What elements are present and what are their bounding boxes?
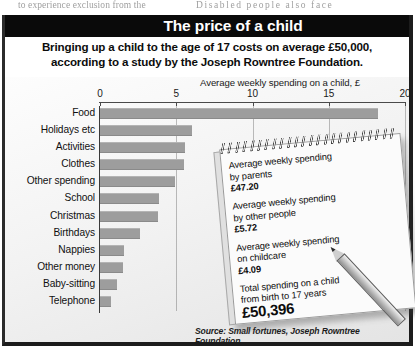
graphic-frame: The price of a child Bringing up a child…: [2, 15, 413, 346]
spiral-coil: [294, 136, 299, 148]
bar-category-label: Other spending: [5, 175, 95, 186]
notepad-item: Average weekly spendingon childcare£4.09: [236, 228, 400, 277]
spiral-coil: [308, 135, 313, 147]
page-title: The price of a child: [5, 17, 401, 35]
x-axis-title: Average weekly spending on a child, £: [155, 77, 405, 88]
x-axis-tick-labels: 05101520: [5, 88, 409, 100]
x-tick-label: 10: [247, 88, 258, 99]
bar-category-label: Holidays etc: [5, 124, 95, 135]
newspaper-bleed-text: to experience exclusion from the Disable…: [0, 0, 415, 14]
spiral-coil: [257, 140, 262, 152]
spiral-coil: [272, 138, 277, 150]
spiral-coil: [323, 133, 328, 145]
spiral-coil: [367, 129, 372, 141]
spiral-coil: [316, 134, 321, 146]
bar: [100, 279, 117, 290]
bar: [100, 125, 192, 136]
x-tick-label: 15: [323, 88, 334, 99]
x-tick-label: 5: [173, 88, 179, 99]
spiral-coil: [279, 138, 284, 150]
bar-category-label: Birthdays: [5, 227, 95, 238]
bar: [100, 108, 378, 119]
spiral-coil: [360, 130, 365, 142]
title-bar: The price of a child: [5, 15, 409, 37]
bar: [100, 176, 175, 187]
bar-category-label: Clothes: [5, 158, 95, 169]
spiral-coil: [331, 133, 336, 145]
spiral-coil: [338, 132, 343, 144]
bar-category-label: Baby-sitting: [5, 278, 95, 289]
bar: [100, 159, 184, 170]
bar: [100, 245, 124, 256]
spiral-coil: [375, 129, 380, 141]
x-tick-label: 0: [97, 88, 103, 99]
deck-line-1: Bringing up a child to the age of 17 cos…: [42, 40, 372, 53]
bar: [100, 193, 159, 204]
infographic-page: to experience exclusion from the Disable…: [0, 0, 415, 359]
bar-category-label: Nappies: [5, 244, 95, 255]
deck-text: Bringing up a child to the age of 17 cos…: [5, 39, 409, 69]
spiral-coil: [220, 143, 225, 155]
bleed-text-left: to experience exclusion from the: [18, 0, 146, 10]
deck-line-2: according to a study by the Joseph Rownt…: [5, 54, 409, 69]
bar-category-label: Other money: [5, 261, 95, 272]
x-tick-label: 20: [399, 88, 410, 99]
bar-category-label: School: [5, 192, 95, 203]
spiral-coil: [390, 127, 395, 139]
bar: [100, 296, 111, 307]
spiral-coil: [242, 141, 247, 153]
bar-category-label: Activities: [5, 141, 95, 152]
spiral-coil: [301, 135, 306, 147]
spiral-coil: [353, 131, 358, 143]
bleed-text-right: Disabled people also face: [196, 0, 333, 10]
spiral-coil: [227, 142, 232, 154]
bar: [100, 228, 140, 239]
bar: [100, 262, 123, 273]
spiral-coil: [235, 142, 240, 154]
spiral-coil: [250, 140, 255, 152]
spiral-coil: [286, 137, 291, 149]
bar-category-label: Christmas: [5, 210, 95, 221]
spiral-coil: [264, 139, 269, 151]
notepad-item: Average weekly spendingby other people£5…: [232, 187, 396, 236]
bar-row: Food: [5, 106, 409, 123]
spiral-coil: [345, 131, 350, 143]
spiral-coil: [382, 128, 387, 140]
bar: [100, 211, 158, 222]
bar-category-label: Food: [5, 107, 95, 118]
bar: [100, 142, 185, 153]
bar-category-label: Telephone: [5, 295, 95, 306]
